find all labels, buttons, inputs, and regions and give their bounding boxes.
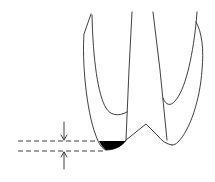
up-arrow-icon	[61, 152, 67, 169]
right-groove-line	[153, 12, 167, 140]
left-pulp-wall	[92, 15, 127, 115]
tooth-cusp-diagram	[0, 0, 215, 182]
right-pulp-wall	[163, 12, 197, 104]
down-arrow-icon	[61, 122, 67, 140]
central-groove-line	[126, 12, 132, 140]
left-cusp-outline	[84, 14, 107, 150]
right-cusp-outline	[172, 22, 203, 145]
